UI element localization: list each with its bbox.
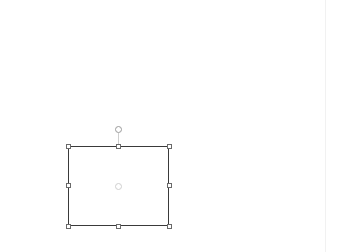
resize-handle-middle-right[interactable]: [167, 183, 172, 188]
resize-handle-top-middle[interactable]: [116, 144, 121, 149]
resize-handle-top-right[interactable]: [167, 144, 172, 149]
right-side-panel: [326, 0, 347, 252]
rotate-handle-icon[interactable]: [115, 126, 122, 133]
resize-handle-bottom-middle[interactable]: [116, 224, 121, 229]
resize-handle-bottom-left[interactable]: [66, 224, 71, 229]
resize-handle-bottom-right[interactable]: [167, 224, 172, 229]
rotate-connector-line: [118, 133, 119, 144]
drawing-canvas[interactable]: [0, 0, 325, 252]
center-point-icon: [115, 183, 122, 190]
resize-handle-middle-left[interactable]: [66, 183, 71, 188]
resize-handle-top-left[interactable]: [66, 144, 71, 149]
